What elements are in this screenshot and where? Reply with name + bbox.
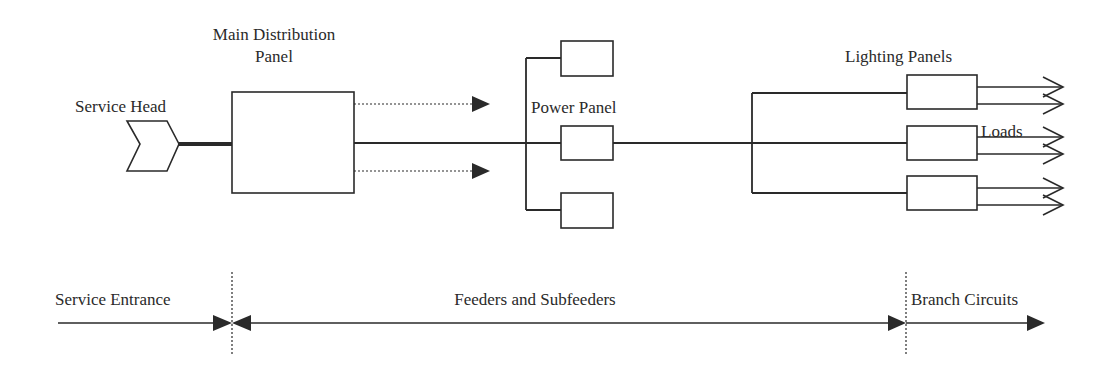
lighting-panel-2 <box>907 126 977 160</box>
main-distribution-label-line1: Main Distribution <box>213 25 336 44</box>
loads-label: Loads <box>981 122 1023 141</box>
zone-label-service-entrance: Service Entrance <box>55 290 171 309</box>
main-distribution-label-line2: Panel <box>255 47 293 66</box>
power-panel <box>561 126 613 160</box>
lighting-panel-3 <box>907 176 977 210</box>
service-head-icon <box>127 121 179 171</box>
arrow-head-icon <box>888 315 906 331</box>
power-panel-top <box>561 41 613 76</box>
arrow-head-icon <box>1027 315 1045 331</box>
arrow-head-icon <box>472 163 490 179</box>
service-head-label: Service Head <box>75 97 167 116</box>
distribution-diagram: Main Distribution Panel Service Head Pow… <box>0 0 1120 372</box>
main-distribution-panel <box>232 92 354 193</box>
lighting-panel-1 <box>907 75 977 109</box>
zone-label-feeders: Feeders and Subfeeders <box>454 290 615 309</box>
power-panel-label: Power Panel <box>531 98 617 117</box>
arrow-head-icon <box>472 96 490 112</box>
load-arrows <box>977 77 1063 215</box>
arrow-head-icon <box>232 315 251 331</box>
arrow-head-icon <box>213 315 232 331</box>
lighting-panels-label: Lighting Panels <box>845 47 952 66</box>
power-panel-bottom <box>561 193 613 228</box>
zone-label-branch-circuits: Branch Circuits <box>911 290 1018 309</box>
power-panel-bus <box>526 58 561 210</box>
